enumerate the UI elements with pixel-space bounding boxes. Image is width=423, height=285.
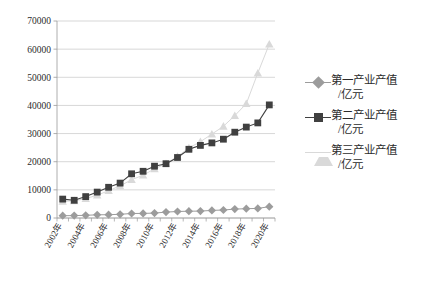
square-marker-icon: [305, 111, 331, 125]
svg-text:2008年: 2008年: [110, 221, 133, 250]
svg-text:20000: 20000: [27, 157, 51, 167]
svg-text:2006年: 2006年: [87, 221, 110, 250]
svg-text:2018年: 2018年: [225, 221, 248, 250]
svg-text:2020年: 2020年: [248, 221, 271, 250]
svg-text:2002年: 2002年: [41, 221, 64, 250]
legend-item-series-3[interactable]: 第三产业产值 /亿元: [305, 144, 423, 171]
svg-text:40000: 40000: [27, 101, 51, 111]
diamond-marker-icon: [305, 76, 331, 90]
legend-item-series-1[interactable]: 第一产业产值 /亿元: [305, 74, 423, 101]
legend-label-series-2: 第二产业产值 /亿元: [331, 109, 397, 136]
data-series-layer: [59, 40, 274, 220]
legend-label-series-3: 第三产业产值 /亿元: [331, 144, 397, 171]
y-axis-tick-labels: 010000200003000040000500006000070000: [27, 16, 51, 223]
x-axis-tick-labels: 2002年2004年2006年2008年2010年2012年2014年2016年…: [41, 221, 271, 250]
triangle-marker-icon: [305, 146, 331, 160]
legend-label-series-1: 第一产业产值 /亿元: [331, 74, 397, 101]
axis-lines: [54, 21, 276, 218]
x-axis-ticks: [57, 218, 275, 222]
legend-item-series-2[interactable]: 第二产业产值 /亿元: [305, 109, 423, 136]
svg-text:70000: 70000: [27, 16, 51, 26]
svg-text:60000: 60000: [27, 45, 51, 55]
svg-text:2004年: 2004年: [64, 221, 87, 250]
svg-text:0: 0: [46, 213, 51, 223]
svg-text:2016年: 2016年: [202, 221, 225, 250]
chart-legend: 第一产业产值 /亿元 第二产业产值 /亿元 第三产业产值 /亿元: [305, 74, 423, 179]
svg-text:10000: 10000: [27, 185, 51, 195]
chart-container: 010000200003000040000500006000070000 200…: [0, 0, 423, 285]
svg-text:30000: 30000: [27, 129, 51, 139]
svg-text:2014年: 2014年: [179, 221, 202, 250]
svg-text:2012年: 2012年: [156, 221, 179, 250]
svg-text:50000: 50000: [27, 73, 51, 83]
svg-text:2010年: 2010年: [133, 221, 156, 250]
gridlines: [57, 21, 275, 218]
